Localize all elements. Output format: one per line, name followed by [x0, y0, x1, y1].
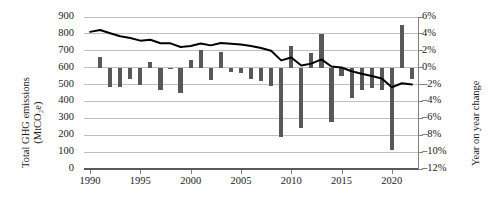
y-axis-right-tick-label: –2%: [422, 78, 462, 89]
y-axis-right-tick-label: 6%: [422, 10, 462, 21]
y-axis-left-tick-label: 700: [34, 44, 74, 55]
chart-figure: Total GHG emissions (MtCO₂e) Year on yea…: [0, 0, 496, 202]
x-axis-tick-label: 2015: [322, 175, 362, 186]
x-axis-line: [84, 168, 418, 170]
emissions-line: [90, 30, 412, 87]
y-axis-left-tick-label: 100: [34, 145, 74, 156]
y-axis-left-tick-label: 400: [34, 94, 74, 105]
y-axis-right-tick-label: 2%: [422, 44, 462, 55]
y-axis-left-tick-label: 200: [34, 128, 74, 139]
x-axis-tick-label: 2020: [372, 175, 412, 186]
y-axis-left-tick-label: 800: [34, 27, 74, 38]
y-axis-left-title-line1: Total GHG emissions: [20, 77, 31, 168]
y-axis-right-tick-label: –6%: [422, 111, 462, 122]
y-axis-right-line: [418, 17, 419, 169]
y-axis-right-tick-label: –8%: [422, 128, 462, 139]
y-axis-left-tick-label: 300: [34, 111, 74, 122]
line-series: [84, 17, 418, 169]
x-axis-tick-label: 2000: [171, 175, 211, 186]
x-axis-tick-label: 1995: [120, 175, 160, 186]
y-axis-left-tick-label: 600: [34, 61, 74, 72]
y-axis-right-title: Year on year change: [470, 80, 482, 166]
x-axis-tick-label: 2005: [221, 175, 261, 186]
y-axis-right-tick-label: –4%: [422, 94, 462, 105]
y-axis-right-tick-label: 4%: [422, 27, 462, 38]
y-axis-right-tick-label: 0%: [422, 61, 462, 72]
x-axis-tick-label: 1990: [70, 175, 110, 186]
y-axis-left-tick-label: 500: [34, 78, 74, 89]
plot-area: [84, 17, 418, 169]
x-axis-tick-label: 2010: [271, 175, 311, 186]
y-axis-right-tick-label: –12%: [422, 162, 462, 173]
y-axis-left-tick-label: 900: [34, 10, 74, 21]
y-axis-left-tick-label: 0: [34, 162, 74, 173]
y-axis-right-tick-label: –10%: [422, 145, 462, 156]
